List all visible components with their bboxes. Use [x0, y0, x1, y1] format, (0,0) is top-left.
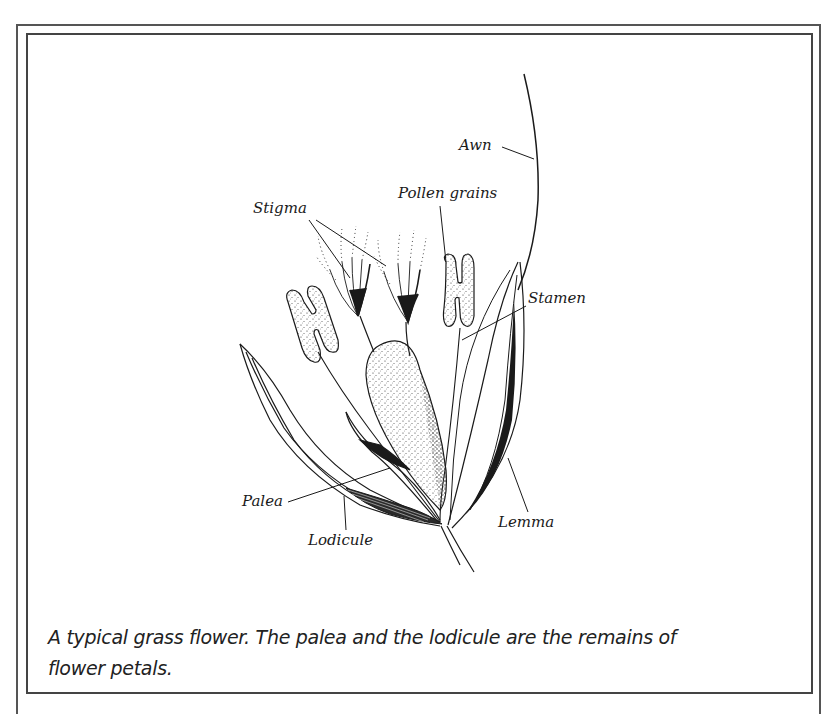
- pollen-grains-right: [443, 254, 474, 326]
- stigma-leader-2: [316, 220, 386, 266]
- pollen-leader: [440, 206, 446, 262]
- stem: [441, 526, 474, 572]
- label-pollen-grains: Pollen grains: [398, 186, 497, 201]
- awn-leader: [502, 147, 534, 159]
- pollen-grains-left: [287, 286, 339, 362]
- lodicule-leader: [344, 496, 346, 530]
- label-stamen: Stamen: [528, 291, 586, 306]
- awn: [518, 74, 538, 290]
- label-palea: Palea: [242, 494, 283, 509]
- label-lodicule: Lodicule: [308, 533, 373, 548]
- caption-line-1: A typical grass flower. The palea and th…: [48, 622, 788, 653]
- caption-line-2: flower petals.: [48, 653, 788, 684]
- label-awn: Awn: [459, 138, 492, 153]
- label-stigma: Stigma: [253, 201, 307, 216]
- stigma-right: [374, 230, 426, 322]
- lemma-leader: [508, 458, 528, 512]
- label-lemma: Lemma: [498, 515, 554, 530]
- figure-caption: A typical grass flower. The palea and th…: [48, 622, 788, 684]
